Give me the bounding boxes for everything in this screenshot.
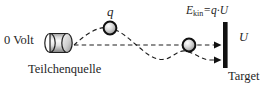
charge-symbol-label: q <box>107 5 114 18</box>
target-bar <box>223 22 228 68</box>
particle-source-cylinder <box>45 34 72 53</box>
formula-subscript: kin <box>193 9 203 18</box>
voltage-symbol-label: U <box>239 31 248 44</box>
particle-upper <box>104 22 117 35</box>
kinetic-energy-formula: Ekin=q·U <box>186 5 228 17</box>
target-label: Target <box>228 70 260 83</box>
particle-lower <box>183 39 196 52</box>
physics-diagram: 0 Volt Teilchenquelle q Ekin=q·U U Targe… <box>0 0 269 89</box>
arrow-wavy-icon <box>214 57 222 64</box>
arrow-straight-icon <box>214 42 222 49</box>
formula-rest: =q·U <box>203 4 228 16</box>
particle-source-label: Teilchenquelle <box>28 63 101 76</box>
formula-base: E <box>186 4 193 16</box>
source-potential-label: 0 Volt <box>4 34 34 47</box>
